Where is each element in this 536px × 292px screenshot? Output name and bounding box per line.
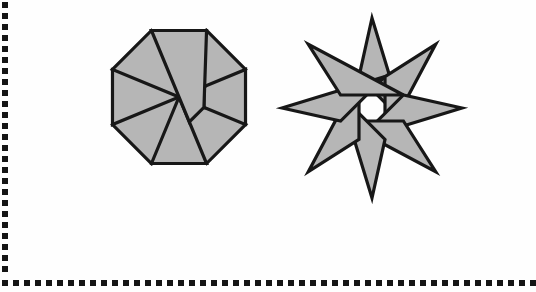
octagon-blade-group — [112, 30, 245, 163]
octagon-pinwheel-svg — [104, 22, 254, 172]
star-blade-group — [282, 18, 462, 198]
page-canvas — [0, 0, 536, 292]
star-pinwheel-svg — [276, 16, 468, 201]
figure-star-pinwheel — [276, 16, 468, 201]
figure-octagon-pinwheel — [104, 22, 254, 172]
figure-area — [0, 0, 536, 292]
